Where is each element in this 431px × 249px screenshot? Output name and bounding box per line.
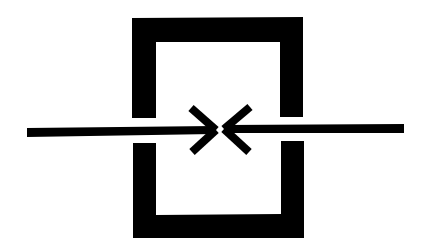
arrows-converging-diagram: Opposing arrows meeting inside a split r… bbox=[0, 0, 431, 249]
frame-bottom-half bbox=[133, 141, 304, 238]
right-arrow-shaft bbox=[225, 124, 404, 133]
frame-top-half bbox=[132, 17, 303, 118]
left-arrow-shaft bbox=[27, 126, 214, 137]
